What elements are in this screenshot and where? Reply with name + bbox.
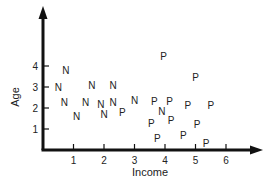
data-point-p: P — [166, 96, 173, 107]
data-point-p: P — [168, 115, 175, 126]
x-tick-label: 6 — [223, 155, 229, 166]
data-point-p: P — [192, 72, 199, 83]
data-point-n: N — [100, 109, 107, 120]
data-point-p: P — [148, 118, 155, 129]
x-axis-arrow-icon — [250, 146, 263, 155]
data-point-p: P — [203, 138, 210, 149]
y-axis-arrow-icon — [39, 6, 48, 19]
data-point-n: N — [88, 80, 95, 91]
data-point-n: N — [97, 99, 104, 110]
x-axis-title: Income — [132, 166, 168, 178]
data-point-n: N — [73, 111, 80, 122]
y-tick-label: 3 — [32, 82, 38, 93]
data-point-p: P — [180, 130, 187, 141]
data-point-p: P — [207, 100, 214, 111]
scatter-chart: 123456 1234 NNNNNNNNNNNNPPPPPPPPPPPPP In… — [0, 0, 273, 188]
x-tick-label: 1 — [71, 155, 77, 166]
y-axis-title: Age — [9, 87, 21, 107]
x-tick-label: 4 — [162, 155, 168, 166]
data-point-n: N — [131, 95, 138, 106]
data-point-p: P — [151, 96, 158, 107]
data-point-n: N — [55, 82, 62, 93]
data-point-n: N — [110, 80, 117, 91]
data-point-n: N — [158, 106, 165, 117]
y-tick-label: 1 — [32, 124, 38, 135]
data-points: NNNNNNNNNNNNPPPPPPPPPPPPP — [55, 51, 215, 149]
data-point-p: P — [185, 100, 192, 111]
x-tick-label: 2 — [101, 155, 107, 166]
y-tick-label: 4 — [32, 61, 38, 72]
data-point-n: N — [110, 97, 117, 108]
data-point-p: P — [119, 107, 126, 118]
y-tick-label: 2 — [32, 103, 38, 114]
data-point-n: N — [61, 97, 68, 108]
x-tick-label: 5 — [193, 155, 199, 166]
x-tick-label: 3 — [132, 155, 138, 166]
data-point-n: N — [62, 65, 69, 76]
data-point-p: P — [194, 119, 201, 130]
data-point-p: P — [160, 51, 167, 62]
data-point-p: P — [154, 133, 161, 144]
y-ticks: 1234 — [32, 61, 49, 135]
data-point-n: N — [82, 97, 89, 108]
